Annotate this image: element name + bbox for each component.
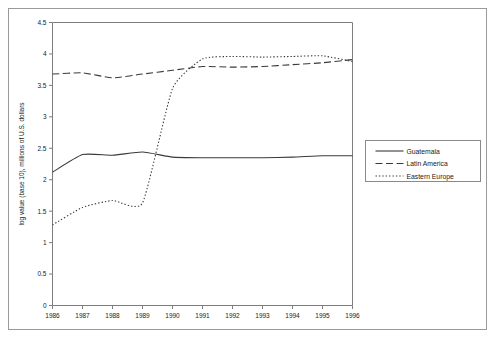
legend-label-guatemala: Guatemala: [407, 148, 440, 155]
series-line-guatemala: [53, 152, 353, 172]
x-tick-label: 1996: [345, 312, 360, 319]
x-tick-label: 1986: [45, 312, 60, 319]
x-tick-label: 1994: [285, 312, 300, 319]
y-tick-label: 4: [43, 50, 47, 57]
chart-legend: GuatemalaLatin AmericaEastern Europe: [366, 141, 481, 182]
x-tick-label: 1992: [225, 312, 240, 319]
x-tick-label: 1995: [315, 312, 330, 319]
y-axis-ticks: 00.511.522.533.544.5: [37, 19, 52, 309]
x-tick-label: 1987: [75, 312, 90, 319]
series-line-eastern-europe: [53, 56, 353, 225]
y-axis-title: log value (base 10), millions of U.S. do…: [18, 102, 26, 226]
series-line-latin-america: [53, 60, 353, 78]
x-tick-label: 1990: [165, 312, 180, 319]
y-tick-label: 1.5: [37, 208, 46, 215]
y-tick-label: 0.5: [37, 270, 46, 277]
line-chart: 00.511.522.533.544.5 1986198719881989199…: [0, 0, 496, 339]
y-tick-label: 3.5: [37, 82, 46, 89]
x-axis-ticks: 1986198719881989199019911992199319941995…: [45, 306, 360, 320]
legend-label-latin-america: Latin America: [407, 160, 448, 167]
y-tick-label: 4.5: [37, 19, 46, 26]
y-tick-label: 3: [43, 113, 47, 120]
data-series-group: [53, 56, 353, 225]
legend-label-eastern-europe: Eastern Europe: [407, 173, 454, 181]
x-tick-label: 1991: [195, 312, 210, 319]
y-tick-label: 2.5: [37, 145, 46, 152]
x-tick-label: 1988: [105, 312, 120, 319]
chart-figure: 00.511.522.533.544.5 1986198719881989199…: [0, 0, 496, 339]
x-tick-label: 1989: [135, 312, 150, 319]
y-tick-label: 2: [43, 176, 47, 183]
x-tick-label: 1993: [255, 312, 270, 319]
y-tick-label: 0: [43, 302, 47, 309]
y-tick-label: 1: [43, 239, 47, 246]
